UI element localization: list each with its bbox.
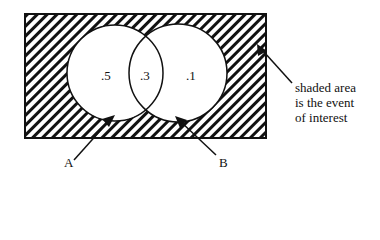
shaded-area-annotation: shaded area is the event of interest [295,80,356,125]
label-a: A [64,155,74,170]
label-b: B [219,155,228,170]
annotation-line-1: shaded area [295,80,356,95]
value-b-only: .1 [186,68,196,83]
arrow-shaded-line [264,52,292,83]
annotation-line-3: of interest [295,110,356,125]
value-intersection: .3 [140,68,150,83]
annotation-line-2: is the event [295,95,356,110]
value-a-only: .5 [101,68,111,83]
